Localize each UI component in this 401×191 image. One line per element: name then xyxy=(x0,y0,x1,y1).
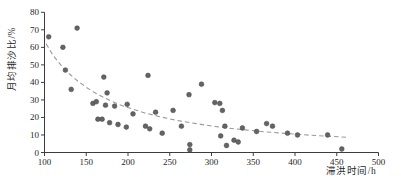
data-point xyxy=(187,142,192,147)
scatter-plot-canvas: 1001502002503003504004505000102030405060… xyxy=(0,0,401,191)
data-point xyxy=(125,102,130,107)
y-tick-label: 50 xyxy=(30,60,40,70)
y-axis-label: 月均排沙比/% xyxy=(6,27,17,91)
x-tick-label: 250 xyxy=(163,157,177,167)
data-point xyxy=(147,126,152,131)
data-point xyxy=(199,82,204,87)
data-point xyxy=(107,120,112,125)
data-point xyxy=(63,68,68,73)
data-point xyxy=(179,124,184,129)
data-point xyxy=(75,26,80,31)
x-tick-label: 500 xyxy=(372,157,386,167)
trend-line xyxy=(46,44,347,138)
x-axis-label: 滞洪时间/h xyxy=(326,165,376,176)
data-point xyxy=(171,108,176,113)
data-point xyxy=(112,104,117,109)
data-point xyxy=(105,91,110,96)
y-tick-label: 10 xyxy=(30,130,40,140)
data-point xyxy=(143,124,148,129)
data-point xyxy=(220,108,225,113)
data-point xyxy=(295,133,300,138)
data-point xyxy=(223,124,228,129)
y-tick-label: 20 xyxy=(30,112,40,122)
x-tick-label: 100 xyxy=(38,157,52,167)
axes: 1001502002503003504004505000102030405060… xyxy=(30,7,386,166)
data-point xyxy=(187,92,192,97)
y-tick-label: 60 xyxy=(30,42,40,52)
data-point xyxy=(254,129,259,134)
data-point xyxy=(94,99,99,104)
data-point xyxy=(146,73,151,78)
data-point xyxy=(270,124,275,129)
data-point xyxy=(100,117,105,122)
y-tick-label: 80 xyxy=(30,7,40,17)
x-tick-label: 300 xyxy=(205,157,219,167)
scatter-points xyxy=(46,26,344,153)
data-point xyxy=(285,131,290,136)
x-tick-label: 150 xyxy=(80,157,94,167)
data-point xyxy=(217,101,222,106)
data-point xyxy=(61,45,66,50)
data-point xyxy=(218,134,223,139)
data-point xyxy=(160,131,165,136)
data-point xyxy=(124,125,129,130)
data-point xyxy=(240,126,245,131)
data-point xyxy=(46,34,51,39)
data-point xyxy=(339,147,344,152)
y-tick-label: 30 xyxy=(30,95,40,105)
data-point xyxy=(153,110,158,115)
x-tick-label: 350 xyxy=(247,157,261,167)
x-tick-label: 450 xyxy=(330,157,344,167)
data-point xyxy=(325,133,330,138)
y-tick-label: 0 xyxy=(35,148,40,158)
x-tick-label: 200 xyxy=(121,157,135,167)
data-point xyxy=(224,143,229,148)
data-point xyxy=(69,87,74,92)
scatter-chart-figure: 1001502002503003504004505000102030405060… xyxy=(0,0,401,191)
y-tick-label: 40 xyxy=(30,77,40,87)
data-point xyxy=(187,148,192,153)
data-point xyxy=(212,100,217,105)
y-tick-label: 70 xyxy=(30,25,40,35)
data-point xyxy=(101,75,106,80)
data-point xyxy=(236,140,241,145)
data-point xyxy=(131,112,136,117)
data-point xyxy=(264,121,269,126)
data-point xyxy=(103,103,108,108)
x-tick-label: 400 xyxy=(288,157,302,167)
data-point xyxy=(116,122,121,127)
